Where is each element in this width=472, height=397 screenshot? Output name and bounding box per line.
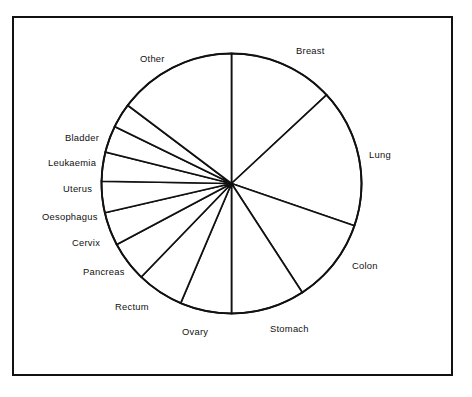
pie-label-cervix: Cervix — [72, 238, 100, 247]
pie-slice-group: BreastLungColonStomachOvaryRectumPancrea… — [102, 54, 362, 314]
pie-label-pancreas: Pancreas — [83, 267, 125, 276]
pie-chart-canvas: BreastLungColonStomachOvaryRectumPancrea… — [0, 0, 472, 397]
pie-label-rectum: Rectum — [115, 302, 149, 311]
pie-label-leukaemia: Leukaemia — [48, 158, 96, 167]
pie-label-bladder: Bladder — [65, 133, 99, 142]
pie-label-stomach: Stomach — [270, 324, 309, 333]
pie-label-colon: Colon — [352, 261, 378, 270]
pie-label-oesophagus: Oesophagus — [42, 212, 98, 221]
pie-label-lung: Lung — [369, 150, 391, 159]
pie-label-breast: Breast — [296, 46, 325, 55]
pie-label-other: Other — [140, 54, 165, 63]
pie-label-uterus: Uterus — [63, 184, 92, 193]
pie-chart-figure: BreastLungColonStomachOvaryRectumPancrea… — [0, 0, 472, 397]
pie-label-ovary: Ovary — [182, 327, 208, 336]
